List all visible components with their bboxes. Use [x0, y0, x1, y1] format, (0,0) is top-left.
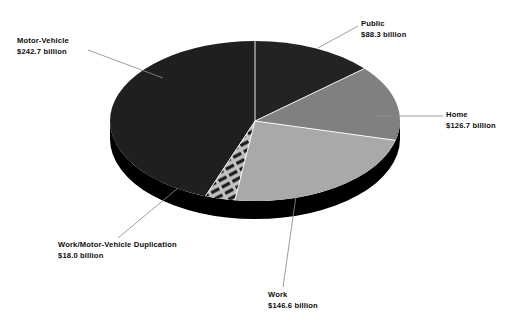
callout-public-value: $88.3 billion: [361, 30, 406, 41]
callout-work-category: Work: [268, 290, 318, 301]
callout-public: Public $88.3 billion: [361, 19, 406, 41]
callout-home-category: Home: [446, 110, 496, 121]
callout-motor-vehicle: Motor-Vehicle $242.7 billion: [17, 36, 69, 58]
leader-line-motor-vehicle: [88, 50, 163, 78]
callout-work: Work $146.6 billion: [268, 290, 318, 312]
callout-public-category: Public: [361, 19, 406, 30]
callout-home-value: $126.7 billion: [446, 121, 496, 132]
leader-line-public: [318, 26, 358, 48]
callout-duplication-category: Work/Motor-Vehicle Duplication: [58, 240, 177, 251]
pie-chart-figure: Motor-Vehicle $242.7 billion Public $88.…: [0, 0, 521, 328]
pie-chart-canvas: [0, 0, 521, 328]
callout-motor-vehicle-category: Motor-Vehicle: [17, 36, 69, 47]
leader-line-duplication: [118, 188, 178, 238]
callout-motor-vehicle-value: $242.7 billion: [17, 47, 69, 58]
callout-duplication: Work/Motor-Vehicle Duplication $18.0 bil…: [58, 240, 177, 262]
callout-duplication-value: $18.0 billion: [58, 251, 177, 262]
callout-home: Home $126.7 billion: [446, 110, 496, 132]
callout-work-value: $146.6 billion: [268, 301, 318, 312]
